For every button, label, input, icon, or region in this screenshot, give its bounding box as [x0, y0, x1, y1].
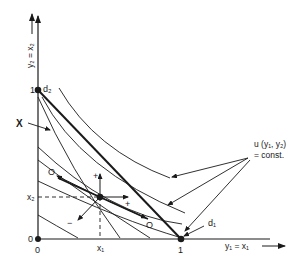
x-axis-label: y₁ = x₁ [225, 241, 249, 251]
label-x1: x₁ [97, 243, 104, 253]
point-x [97, 194, 104, 201]
point-origin [35, 236, 41, 242]
label-minus: − [67, 218, 72, 228]
label-plus-up: + [93, 171, 98, 181]
x-tick-one: 1 [178, 245, 183, 255]
utility-pointer-2 [168, 158, 248, 205]
origin-x-label: 0 [35, 245, 40, 255]
indifference-curves [38, 88, 185, 238]
label-d2: d₂ [43, 84, 52, 94]
label-d1: d₁ [208, 218, 216, 228]
indifference-curve-1 [59, 88, 170, 178]
label-set-X: X [16, 118, 23, 129]
label-plus-right: + [125, 199, 130, 209]
label-x2: x₂ [27, 192, 35, 202]
label-utility-line2: = const. [254, 150, 284, 160]
label-utility-line1: u (y₁, y₂) [254, 139, 286, 149]
label-O-left: O [48, 167, 55, 177]
origin-y-label: 0 [28, 234, 33, 244]
axes [32, 14, 285, 246]
y-tick-one: 1 [30, 85, 35, 95]
indifference-curve-2 [42, 97, 185, 213]
arrow-O-right [100, 197, 146, 218]
d1-pointer [184, 226, 204, 236]
indifference-curve-4 [38, 181, 182, 238]
y-axis-label: y₂ = x₂ [25, 43, 35, 68]
label-O-right: O [146, 220, 153, 230]
budget-line-d2-d1 [38, 90, 181, 239]
indifference-curve-diagram: y₂ = x₂ y₁ = x₁ 1 1 0 0 d₂ d₁ x₂ x₁ X u … [0, 0, 297, 264]
utility-pointer-3 [185, 160, 250, 231]
set-X-pointer [28, 123, 50, 130]
point-d1 [178, 236, 185, 243]
point-d2 [35, 87, 42, 94]
